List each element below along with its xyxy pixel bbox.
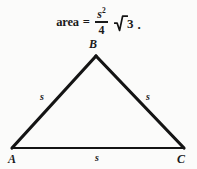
side-label-AC: s (95, 153, 99, 163)
side-label-BC: s (146, 92, 150, 102)
triangle-side-BC (96, 56, 184, 148)
vertex-label-A: A (8, 153, 16, 165)
triangle-side-AB (12, 56, 96, 148)
vertex-label-B: B (89, 38, 97, 50)
vertex-label-C: C (177, 153, 185, 165)
geometry-figure: area = s2 4 3 . B A C s (0, 0, 197, 169)
triangle-shape (0, 0, 197, 169)
side-label-AB: s (40, 92, 44, 102)
